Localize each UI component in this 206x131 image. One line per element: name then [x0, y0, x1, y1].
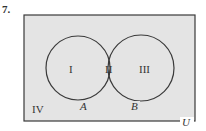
region-iv-label: IV	[32, 103, 44, 115]
set-b-label: B	[131, 100, 138, 112]
region-i-label: I	[69, 63, 73, 75]
set-a-label: A	[79, 100, 87, 112]
region-iii-label: III	[139, 63, 150, 75]
universe-label: U	[182, 116, 191, 128]
region-ii-label: II	[105, 63, 113, 75]
venn-diagram: I II III IV A B U	[0, 0, 206, 131]
